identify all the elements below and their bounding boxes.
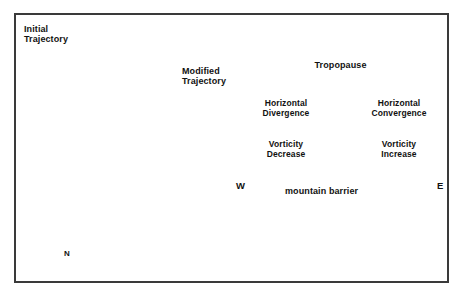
east-label: E [437, 181, 443, 192]
initial-trajectory-label: Initial Trajectory [24, 24, 68, 44]
vorticity-decrease-label: Vorticity Decrease [240, 140, 332, 159]
figure-root: Initial Trajectory Modified Trajectory N… [0, 0, 463, 295]
tropopause-label: Tropopause [232, 60, 449, 70]
west-label: W [236, 181, 245, 192]
vorticity-increase-label: Vorticity Increase [352, 140, 446, 159]
modified-trajectory-label: Modified Trajectory [182, 66, 226, 86]
north-label: N [64, 250, 70, 259]
horizontal-divergence-label: Horizontal Divergence [240, 99, 332, 118]
mountain-barrier-label: mountain barrier [285, 186, 358, 196]
horizontal-convergence-label: Horizontal Convergence [352, 99, 446, 118]
